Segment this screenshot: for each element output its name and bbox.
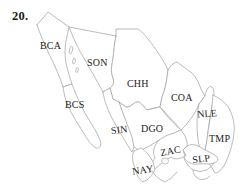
state-label-sin: SIN xyxy=(110,123,128,136)
quiz-map-figure: 20. BCA SON xyxy=(0,0,246,192)
partial-state-outline xyxy=(152,171,177,182)
state-label-slp: SLP xyxy=(192,152,211,165)
state-label-bca: BCA xyxy=(40,40,62,51)
state-label-nle: NLE xyxy=(197,107,218,120)
partial-state-outline xyxy=(162,158,169,164)
gulf-island-icon xyxy=(72,58,76,64)
state-shape-bcs xyxy=(63,84,101,148)
state-label-son: SON xyxy=(87,57,108,68)
state-shape-chh xyxy=(110,29,168,110)
state-label-chh: CHH xyxy=(127,78,149,89)
state-label-coa: COA xyxy=(171,92,193,103)
gulf-island-icon xyxy=(75,67,78,72)
gulf-island-icon xyxy=(69,46,74,54)
state-label-bcs: BCS xyxy=(65,99,85,110)
state-label-dgo: DGO xyxy=(141,123,163,134)
state-label-tmp: TMP xyxy=(209,133,230,144)
mexico-states-map: BCA SON CHH BCS SIN DGO COA NLE TMP ZAC … xyxy=(0,0,246,192)
